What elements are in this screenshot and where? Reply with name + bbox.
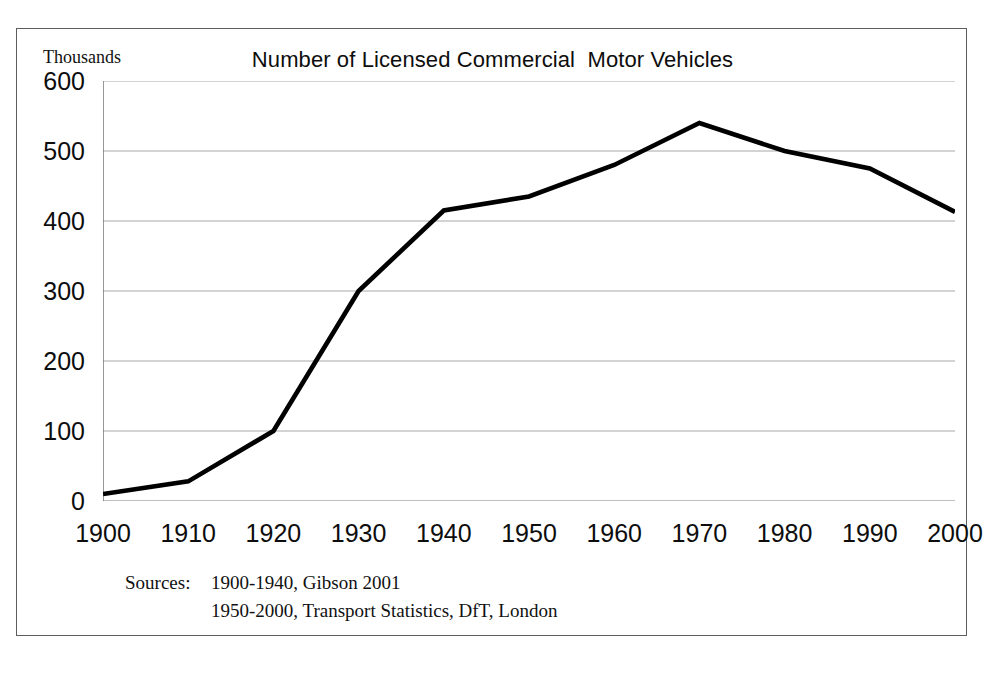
- x-axis-tick-label: 1950: [484, 519, 574, 548]
- chart-title: Number of Licensed Commercial Motor Vehi…: [17, 47, 968, 73]
- x-axis-tick-label: 1920: [228, 519, 318, 548]
- x-axis-tick-label: 2000: [910, 519, 993, 548]
- gridlines: [103, 81, 955, 501]
- y-axis-tick-label: 100: [7, 417, 85, 446]
- y-axis-tick-label: 400: [7, 207, 85, 236]
- data-series-line: [103, 123, 955, 494]
- plot-area: 0100200300400500600 19001910192019301940…: [103, 81, 955, 501]
- sources-label: Sources:: [125, 569, 211, 597]
- y-axis-tick-label: 0: [7, 487, 85, 516]
- sources-indent-spacer: [125, 597, 211, 625]
- x-axis-tick-label: 1970: [654, 519, 744, 548]
- x-axis-tick-label: 1980: [740, 519, 830, 548]
- x-axis-tick-label: 1960: [569, 519, 659, 548]
- y-axis-tick-label: 600: [7, 67, 85, 96]
- sources-row-1: Sources: 1900-1940, Gibson 2001: [125, 569, 557, 597]
- sources-row-2: 1950-2000, Transport Statistics, DfT, Lo…: [125, 597, 557, 625]
- y-axis-tick-label: 200: [7, 347, 85, 376]
- x-axis-tick-label: 1900: [58, 519, 148, 548]
- line-chart-svg: [103, 81, 955, 501]
- sources-line-2: 1950-2000, Transport Statistics, DfT, Lo…: [211, 597, 557, 625]
- figure-root: Thousands Number of Licensed Commercial …: [0, 0, 993, 675]
- chart-frame: Thousands Number of Licensed Commercial …: [16, 28, 967, 636]
- x-axis-tick-label: 1940: [399, 519, 489, 548]
- sources-line-1: 1900-1940, Gibson 2001: [211, 569, 400, 597]
- x-axis-tick-label: 1990: [825, 519, 915, 548]
- y-axis-tick-label: 300: [7, 277, 85, 306]
- x-axis-tick-label: 1930: [314, 519, 404, 548]
- x-axis-tick-label: 1910: [143, 519, 233, 548]
- y-axis-tick-label: 500: [7, 137, 85, 166]
- sources-block: Sources: 1900-1940, Gibson 2001 1950-200…: [125, 569, 557, 624]
